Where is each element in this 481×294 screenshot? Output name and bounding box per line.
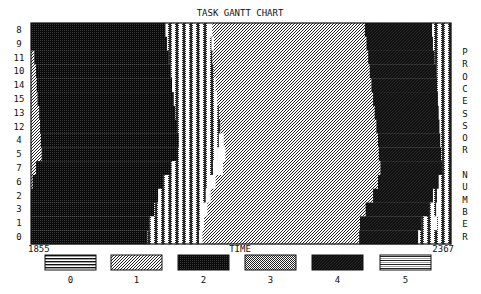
legend-label-2: 2 xyxy=(201,275,206,285)
task-bar-type-3 xyxy=(177,120,221,134)
gantt-chart: TASK GANTT CHART 8911101415131245762310 … xyxy=(0,0,481,294)
task-bar-type-3 xyxy=(163,175,209,189)
task-bar-type-1 xyxy=(214,37,367,51)
task-bar-type-1 xyxy=(211,189,374,203)
task-bar-type-1 xyxy=(219,106,375,120)
task-bar-type-1 xyxy=(212,23,365,37)
idle-gap xyxy=(213,161,223,175)
y-tick-label: 10 xyxy=(14,66,25,76)
task-bar-type-2 xyxy=(31,230,148,244)
y-tick-label: 5 xyxy=(16,149,21,159)
y-axis-title-letter: R xyxy=(462,145,468,155)
task-bar-type-3 xyxy=(158,189,206,203)
task-bar-type-2 xyxy=(40,120,177,134)
legend-label-5: 5 xyxy=(403,275,408,285)
x-tick-label-start: 1855 xyxy=(28,244,50,254)
gantt-row-processor-13 xyxy=(31,106,451,120)
task-bar-type-2 xyxy=(31,203,154,217)
y-axis-title-letter: N xyxy=(462,170,467,180)
y-axis-title-letter: R xyxy=(462,59,468,69)
y-tick-label: 14 xyxy=(14,80,25,90)
task-bar-type-1 xyxy=(31,78,37,92)
idle-gap xyxy=(433,216,437,230)
y-axis-title-letter: S xyxy=(462,121,467,131)
chart-title: TASK GANTT CHART xyxy=(197,8,284,18)
legend: 012345 xyxy=(45,255,431,285)
y-axis-title-letter: O xyxy=(462,133,467,143)
task-bar-type-3 xyxy=(433,189,437,203)
legend-swatch-0 xyxy=(45,255,96,270)
y-axis-title-letter: C xyxy=(462,84,467,94)
task-bar-type-3 xyxy=(170,64,214,78)
task-bar-type-2 xyxy=(36,161,172,175)
legend-swatch-2 xyxy=(178,255,229,270)
task-bar-type-3 xyxy=(439,175,452,189)
gantt-row-processor-15 xyxy=(31,92,451,106)
task-bar-type-3 xyxy=(433,37,451,51)
task-bar-type-3 xyxy=(166,23,211,37)
idle-gap xyxy=(201,216,205,230)
task-bar-type-2 xyxy=(38,92,174,106)
task-bar-type-3 xyxy=(437,216,451,230)
gantt-row-processor-7 xyxy=(31,161,451,175)
idle-gap xyxy=(211,37,214,51)
task-bar-type-3 xyxy=(439,106,452,120)
task-bar-type-3 xyxy=(440,134,451,148)
y-axis-title-letter: S xyxy=(462,109,467,119)
task-bar-type-1 xyxy=(31,106,40,120)
task-bar-type-1 xyxy=(223,161,381,175)
task-bar-type-2 xyxy=(39,106,175,120)
legend-label-0: 0 xyxy=(68,275,73,285)
task-bar-type-3 xyxy=(149,216,201,230)
gantt-row-processor-12 xyxy=(31,120,451,134)
task-bar-type-3 xyxy=(440,120,452,134)
y-axis-title-letter: O xyxy=(462,72,467,82)
idle-gap xyxy=(436,203,440,217)
task-bar-type-1 xyxy=(214,64,370,78)
idle-gap xyxy=(199,230,203,244)
task-bar-type-4 xyxy=(373,92,438,106)
x-axis-label: TIME xyxy=(229,244,251,254)
task-bar-type-3 xyxy=(172,78,216,92)
task-bar-type-4 xyxy=(375,106,439,120)
task-bar-type-3 xyxy=(437,78,451,92)
y-tick-label: 15 xyxy=(14,94,25,104)
y-axis-title-letter: E xyxy=(462,219,467,229)
task-bar-type-4 xyxy=(360,216,422,230)
y-tick-label: 11 xyxy=(14,53,25,63)
task-bar-type-1 xyxy=(217,92,373,106)
task-bar-type-3 xyxy=(154,203,203,217)
task-bar-type-3 xyxy=(432,23,451,37)
task-bar-type-3 xyxy=(179,134,220,148)
task-bar-type-3 xyxy=(441,147,451,161)
legend-swatch-4 xyxy=(312,255,363,270)
gantt-row-processor-5 xyxy=(31,147,451,161)
task-bar-type-1 xyxy=(216,175,379,189)
y-axis-title-letter: M xyxy=(462,195,468,205)
task-bar-type-3 xyxy=(167,37,212,51)
y-axis-labels: 8911101415131245762310 xyxy=(14,25,25,242)
task-bar-type-3 xyxy=(435,51,452,65)
gantt-row-processor-4 xyxy=(31,134,451,148)
legend-swatch-5 xyxy=(380,255,431,270)
task-bar-type-4 xyxy=(373,189,433,203)
task-bar-type-4 xyxy=(379,147,442,161)
task-bar-type-1 xyxy=(31,147,42,161)
task-bar-type-4 xyxy=(366,203,429,217)
gantt-row-processor-2 xyxy=(31,189,451,203)
task-bar-type-3 xyxy=(440,203,451,217)
task-bar-type-4 xyxy=(378,175,439,189)
task-bar-type-1 xyxy=(207,203,366,217)
task-bar-type-2 xyxy=(31,189,158,203)
y-tick-label: 8 xyxy=(16,25,21,35)
task-bar-type-3 xyxy=(174,92,218,106)
task-bar-type-4 xyxy=(371,78,437,92)
task-bar-type-1 xyxy=(31,64,36,78)
y-tick-label: 9 xyxy=(16,39,21,49)
task-bar-type-1 xyxy=(31,92,38,106)
y-tick-label: 7 xyxy=(16,163,21,173)
task-bar-type-1 xyxy=(202,230,359,244)
task-bar-type-4 xyxy=(380,161,442,175)
task-bar-type-2 xyxy=(41,134,179,148)
task-bar-type-4 xyxy=(378,134,441,148)
